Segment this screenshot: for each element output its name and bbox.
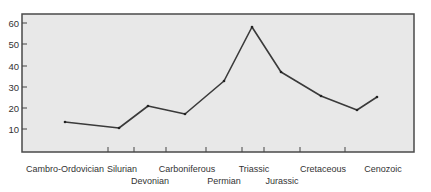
x-label-devonian: Devonian	[131, 176, 169, 186]
x-label-cretaceous: Cretaceous	[300, 164, 347, 174]
data-point	[320, 95, 323, 98]
data-point	[376, 96, 379, 99]
data-point	[147, 105, 150, 108]
data-point	[64, 121, 67, 124]
x-label-cambro-ordovician: Cambro-Ordovician	[26, 164, 104, 174]
x-label-cenozoic: Cenozoic	[364, 164, 402, 174]
x-label-permian: Permian	[207, 176, 241, 186]
y-tick-label: 60	[8, 18, 19, 29]
y-tick-label: 20	[8, 103, 19, 114]
x-label-jurassic: Jurassic	[265, 176, 299, 186]
x-label-carboniferous: Carboniferous	[159, 164, 216, 174]
x-label-triassic: Triassic	[239, 164, 270, 174]
data-point	[356, 109, 359, 112]
data-point	[118, 127, 121, 130]
y-tick-label: 50	[8, 39, 19, 50]
data-point	[223, 80, 226, 83]
line-chart: 60 50 40 30 20 10 Cambro-Ordovician Silu…	[0, 0, 431, 192]
y-tick-label: 40	[8, 61, 19, 72]
x-axis-labels: Cambro-Ordovician Silurian Devonian Carb…	[26, 164, 402, 186]
y-tick-label: 30	[8, 82, 19, 93]
plot-area	[22, 14, 414, 152]
y-tick-label: 10	[8, 124, 19, 135]
data-point	[184, 113, 187, 116]
data-point	[251, 26, 254, 29]
data-point	[280, 71, 283, 74]
x-label-silurian: Silurian	[107, 164, 137, 174]
